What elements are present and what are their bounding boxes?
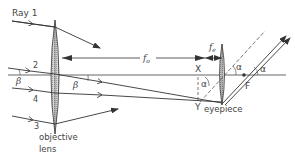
- objective-lens-label-line2: lens: [39, 144, 57, 154]
- point-y-label: Y: [194, 102, 201, 112]
- beta-right-label: β: [72, 80, 78, 90]
- point-x-label: X: [195, 64, 201, 74]
- alpha-f-label: α: [260, 64, 266, 74]
- eyepiece-lens: [220, 44, 225, 105]
- beta-arc-left: [19, 70, 20, 75]
- objective-lens: [51, 20, 59, 134]
- telescope-diagram: Ray 1 2 4 3 β β fo fe X Y F α α α object…: [0, 0, 295, 157]
- fo-dimension: [62, 55, 205, 61]
- focal-point-dot: [242, 73, 246, 77]
- ray-4: [12, 88, 222, 102]
- objective-lens-label-line1: objective: [39, 132, 78, 142]
- ray-2: [8, 68, 222, 103]
- ray-2-label: 2: [33, 61, 38, 70]
- ray-1-label: Ray 1: [12, 8, 37, 18]
- fe-label: fe: [208, 42, 216, 53]
- alpha-lens-label: α: [236, 62, 242, 72]
- beta-left-label: β: [15, 76, 21, 86]
- ray-3-label: 3: [34, 122, 39, 131]
- ray-3: [12, 109, 118, 124]
- fe-dimension: [205, 55, 222, 61]
- alpha-x-label: α: [201, 79, 207, 89]
- fo-label: fo: [142, 53, 150, 64]
- emergent-rays: [222, 36, 290, 105]
- ray-4-label: 4: [33, 95, 38, 104]
- eyepiece-label: eyepiece: [204, 104, 242, 114]
- point-f-label: F: [245, 81, 250, 91]
